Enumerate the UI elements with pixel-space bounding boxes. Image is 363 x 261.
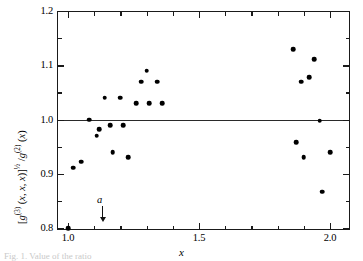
x-minor-tick-top	[94, 11, 95, 16]
y-tick-label: 1.2	[23, 6, 53, 16]
x-minor-tick	[251, 226, 252, 231]
data-point	[144, 68, 149, 73]
x-minor-tick-top	[173, 11, 174, 16]
y-major-tick	[57, 11, 64, 12]
data-point	[97, 127, 102, 132]
y-major-tick-right	[343, 228, 350, 229]
y-minor-tick	[57, 201, 62, 202]
y-major-tick	[57, 174, 64, 175]
y-minor-tick	[57, 92, 62, 93]
x-tick-label: 1.5	[179, 233, 219, 243]
x-minor-tick-top	[304, 11, 305, 16]
x-minor-tick	[120, 226, 121, 231]
data-point	[147, 101, 152, 106]
y-minor-tick	[57, 147, 62, 148]
x-minor-tick-top	[120, 11, 121, 16]
data-point	[317, 118, 322, 123]
data-point	[312, 57, 317, 62]
x-minor-tick	[173, 226, 174, 231]
x-minor-tick-top	[278, 11, 279, 16]
data-point	[134, 101, 139, 106]
data-point	[307, 75, 312, 80]
y-major-tick	[57, 228, 64, 229]
x-major-tick	[330, 223, 331, 230]
x-minor-tick-top	[251, 11, 252, 16]
data-point	[102, 96, 107, 101]
figure-caption: Fig. 1. Value of the ratio	[4, 251, 92, 261]
data-point	[126, 155, 131, 160]
data-point	[118, 96, 123, 101]
data-point	[299, 79, 304, 84]
y-minor-tick-right	[346, 38, 351, 39]
annotation-a-label: a	[97, 194, 102, 205]
data-point	[139, 79, 144, 84]
data-point	[291, 47, 296, 52]
y-minor-tick-right	[346, 201, 351, 202]
y-tick-label: 0.9	[23, 169, 53, 179]
data-point	[121, 123, 126, 128]
x-minor-tick-top	[225, 11, 226, 16]
y-tick-label: 0.8	[23, 223, 53, 233]
annotation-a-arrow-head	[100, 217, 106, 222]
x-minor-tick	[147, 226, 148, 231]
data-point	[87, 117, 92, 122]
y-minor-tick-right	[346, 147, 351, 148]
y-major-tick-right	[343, 174, 350, 175]
data-point	[160, 101, 165, 106]
y-tick-label: 1.1	[23, 60, 53, 70]
data-point	[95, 133, 100, 138]
data-point	[294, 140, 299, 145]
x-minor-tick	[304, 226, 305, 231]
x-minor-tick	[94, 226, 95, 231]
data-point	[155, 79, 160, 84]
y-major-tick-right	[343, 11, 350, 12]
x-major-tick-top	[330, 11, 331, 18]
data-point	[79, 160, 84, 165]
x-major-tick-top	[199, 11, 200, 18]
x-tick-label: 1.0	[48, 233, 88, 243]
y-major-tick	[57, 120, 64, 121]
x-major-tick-top	[68, 11, 69, 18]
x-major-tick	[199, 223, 200, 230]
data-point	[108, 123, 113, 128]
data-point	[110, 150, 115, 155]
data-point	[302, 155, 307, 160]
x-tick-label: 2.0	[310, 233, 350, 243]
reference-line-unity	[57, 120, 350, 121]
y-minor-tick	[57, 38, 62, 39]
data-point	[328, 150, 333, 155]
y-major-tick	[57, 65, 64, 66]
x-minor-tick	[225, 226, 226, 231]
data-point	[66, 226, 71, 231]
x-minor-tick	[278, 226, 279, 231]
y-major-tick-right	[343, 120, 350, 121]
y-major-tick-right	[343, 65, 350, 66]
y-minor-tick-right	[346, 92, 351, 93]
data-point	[71, 165, 76, 170]
data-point	[320, 189, 325, 194]
x-minor-tick-top	[147, 11, 148, 16]
y-axis-title: [g(3) (x, x, x)]½ /g(2) (x)	[14, 130, 27, 224]
y-tick-label: 1.0	[23, 115, 53, 125]
